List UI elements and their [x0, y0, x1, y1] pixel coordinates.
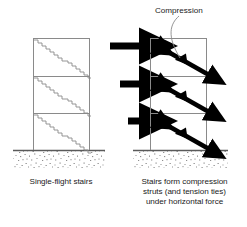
caption-single-flight-stairs: Single-flight stairs — [4, 177, 118, 187]
compression-label: Compression — [155, 6, 245, 15]
ground-left — [13, 151, 105, 170]
caption-compression-struts: Stairs form compression struts (and tens… — [125, 177, 244, 208]
ground-right — [133, 151, 228, 170]
stair-flight-bottom-left — [34, 115, 91, 153]
stair-flight-middle-left — [34, 78, 91, 116]
stair-flight-top-left — [34, 40, 91, 78]
